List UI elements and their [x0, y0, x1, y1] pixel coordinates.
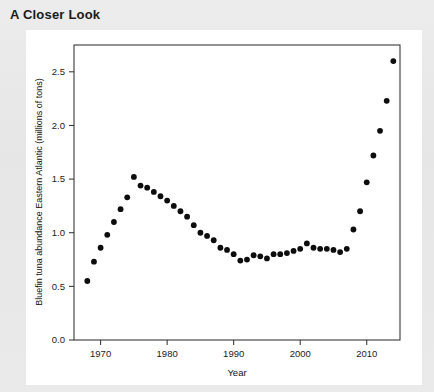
data-point	[204, 233, 210, 239]
data-point	[151, 189, 157, 195]
data-point	[124, 194, 130, 200]
x-tick-label: 1970	[90, 348, 111, 359]
data-point	[131, 174, 137, 180]
y-tick-label: 2.0	[52, 120, 65, 131]
scatter-chart: 0.00.51.01.52.02.5 19701980199020002010 …	[26, 30, 422, 385]
figure-card: 0.00.51.01.52.02.5 19701980199020002010 …	[26, 30, 422, 385]
data-point	[257, 253, 263, 259]
data-point	[144, 185, 150, 191]
data-point	[291, 248, 297, 254]
data-point	[277, 251, 283, 257]
data-point	[351, 227, 357, 233]
data-point	[217, 245, 223, 251]
data-point	[178, 208, 184, 214]
y-tick-label: 0.5	[52, 281, 65, 292]
data-point	[344, 246, 350, 252]
plot-frame	[74, 45, 400, 340]
data-point	[118, 206, 124, 212]
data-point	[191, 222, 197, 228]
data-point	[158, 193, 164, 199]
data-points-layer	[84, 58, 396, 284]
data-point	[331, 247, 337, 253]
x-axis-title: Year	[227, 367, 246, 378]
data-point	[138, 183, 144, 189]
data-point	[111, 219, 117, 225]
y-axis-ticks: 0.00.51.01.52.02.5	[52, 66, 74, 345]
data-point	[104, 232, 110, 238]
y-tick-label: 2.5	[52, 66, 65, 77]
data-point	[224, 247, 230, 253]
figure-page: A Closer Look 0.00.51.01.52.02.5 1970198…	[0, 0, 434, 392]
data-point	[364, 179, 370, 185]
data-point	[317, 246, 323, 252]
data-point	[284, 250, 290, 256]
data-point	[184, 214, 190, 220]
y-tick-label: 0.0	[52, 334, 65, 345]
data-point	[311, 245, 317, 251]
y-tick-label: 1.5	[52, 173, 65, 184]
data-point	[357, 208, 363, 214]
data-point	[98, 245, 104, 251]
data-point	[211, 237, 217, 243]
data-point	[231, 251, 237, 257]
data-point	[377, 128, 383, 134]
x-axis-ticks: 19701980199020002010	[90, 340, 377, 359]
data-point	[198, 230, 204, 236]
x-tick-label: 1990	[223, 348, 244, 359]
data-point	[264, 256, 270, 262]
x-tick-label: 2010	[356, 348, 377, 359]
data-point	[337, 249, 343, 255]
data-point	[384, 98, 390, 104]
data-point	[91, 259, 97, 265]
data-point	[324, 246, 330, 252]
panel-title: A Closer Look	[10, 7, 100, 22]
data-point	[297, 246, 303, 252]
data-point	[171, 203, 177, 209]
data-point	[370, 153, 376, 159]
data-point	[84, 278, 90, 284]
data-point	[237, 258, 243, 264]
data-point	[164, 198, 170, 204]
data-point	[271, 251, 277, 257]
x-tick-label: 2000	[290, 348, 311, 359]
data-point	[390, 58, 396, 64]
x-tick-label: 1980	[157, 348, 178, 359]
data-point	[244, 257, 250, 263]
data-point	[304, 241, 310, 247]
y-axis-title: Bluefin tuna abundance Eastern Atlantic …	[34, 78, 44, 306]
y-tick-label: 1.0	[52, 227, 65, 238]
data-point	[251, 252, 257, 258]
